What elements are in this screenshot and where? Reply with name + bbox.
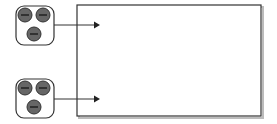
minus-charge-icon [36, 8, 50, 22]
minus-charge-icon [27, 27, 41, 41]
minus-charge-icon [18, 8, 32, 22]
target-rectangle [77, 5, 261, 116]
minus-charge-icon [36, 81, 50, 95]
diagram-canvas [0, 0, 277, 124]
minus-charge-icon [18, 81, 32, 95]
minus-charge-icon [27, 100, 41, 114]
